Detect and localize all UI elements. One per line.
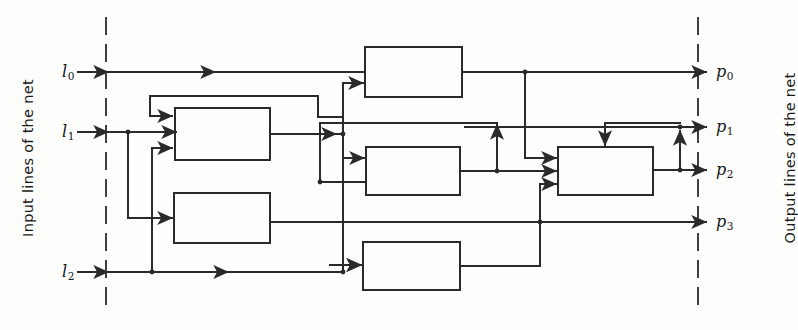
output-lines-label: Output lines of the net [782, 68, 798, 248]
diagram-canvas [0, 0, 798, 330]
input-port-label-l1: l1 [62, 122, 74, 141]
output-port-label-p1: p1 [716, 117, 733, 136]
block-1 [365, 47, 462, 97]
wire-block1-to-block6 [525, 72, 556, 158]
wire-l1-to-block3 [128, 132, 172, 218]
wire-block5-to-block6 [460, 184, 556, 266]
input-port-label-l2: l2 [62, 262, 74, 281]
output-port-label-p0: p0 [716, 62, 733, 81]
wire-l2-to-block2 [152, 148, 172, 272]
block-2 [175, 108, 270, 160]
input-lines-label: Input lines of the net [20, 68, 36, 248]
wire-bus-to-block5 [343, 265, 361, 272]
block-6 [558, 147, 653, 195]
block-diagram: Input lines of the net Output lines of t… [0, 0, 798, 330]
input-port-label-l0: l0 [62, 62, 74, 81]
wire-feedback-top-descend [318, 96, 343, 117]
block-5 [363, 242, 460, 290]
output-port-label-p2: p2 [716, 160, 733, 179]
output-port-label-p3: p3 [716, 212, 733, 231]
block-3 [174, 193, 270, 243]
block-4 [366, 147, 460, 195]
